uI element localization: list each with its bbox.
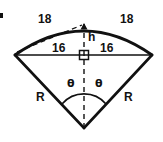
chord-right-label: 16 <box>100 42 113 54</box>
sector-diagram-svg <box>0 0 163 142</box>
secondary-chord-dashed-line <box>17 25 82 52</box>
angle-left-label: θ <box>67 78 75 89</box>
arc-right-label: 18 <box>120 13 133 25</box>
radius-left-label: R <box>36 91 45 103</box>
sector-diagram: 18 18 16 16 h R R θ θ <box>0 0 163 142</box>
radius-right-line <box>84 55 152 128</box>
height-label: h <box>88 31 95 43</box>
height-arrowhead-icon <box>81 23 88 30</box>
angle-right-label: θ <box>95 78 103 89</box>
arc-left-label: 18 <box>38 13 51 25</box>
radius-right-label: R <box>124 91 133 103</box>
radius-left-line <box>15 55 84 128</box>
chord-left-label: 16 <box>52 42 65 54</box>
